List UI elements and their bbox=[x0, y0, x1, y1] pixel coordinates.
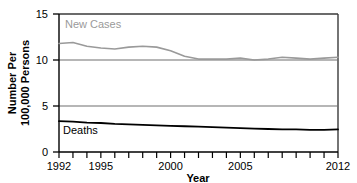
x-tick-marks bbox=[59, 152, 338, 158]
series-label-deaths: Deaths bbox=[63, 124, 98, 136]
y-axis-title-line1: Number Per bbox=[6, 51, 18, 114]
x-tick-label-1995: 1995 bbox=[89, 160, 113, 172]
x-axis-title: Year bbox=[186, 172, 210, 183]
y-tick-label-0: 0 bbox=[42, 146, 48, 158]
y-axis-title-line2: 100,000 Persons bbox=[19, 40, 31, 126]
chart-container: 15 10 5 0 1992 bbox=[0, 0, 357, 183]
y-tick-label-10: 10 bbox=[36, 54, 48, 66]
x-tick-label-2012: 2012 bbox=[326, 160, 350, 172]
y-tick-label-5: 5 bbox=[42, 100, 48, 112]
x-tick-label-2000: 2000 bbox=[158, 160, 182, 172]
line-chart: 15 10 5 0 1992 bbox=[0, 0, 357, 183]
series-label-new-cases: New Cases bbox=[65, 18, 122, 30]
chart-background bbox=[0, 0, 357, 183]
x-tick-label-1992: 1992 bbox=[47, 160, 71, 172]
y-tick-label-15: 15 bbox=[36, 8, 48, 20]
x-tick-label-2005: 2005 bbox=[228, 160, 252, 172]
